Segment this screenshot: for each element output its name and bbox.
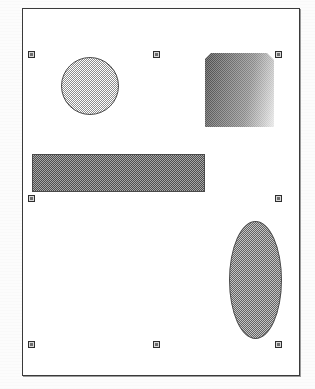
- shape-circle[interactable]: [61, 57, 119, 115]
- shape-gradient-box[interactable]: [205, 53, 274, 127]
- canvas-frame[interactable]: [22, 8, 300, 376]
- handle-bottom-right[interactable]: [275, 341, 282, 348]
- drawing-canvas-view: [0, 0, 315, 389]
- handle-middle-left[interactable]: [28, 195, 35, 202]
- handle-middle-right[interactable]: [275, 195, 282, 202]
- canvas-surface[interactable]: [23, 9, 299, 375]
- handle-top-center[interactable]: [153, 51, 160, 58]
- shape-vertical-ellipse[interactable]: [229, 221, 282, 339]
- handle-bottom-center[interactable]: [153, 341, 160, 348]
- shape-horizontal-bar[interactable]: [32, 154, 205, 192]
- handle-bottom-left[interactable]: [28, 341, 35, 348]
- handle-top-right[interactable]: [275, 51, 282, 58]
- handle-top-left[interactable]: [28, 51, 35, 58]
